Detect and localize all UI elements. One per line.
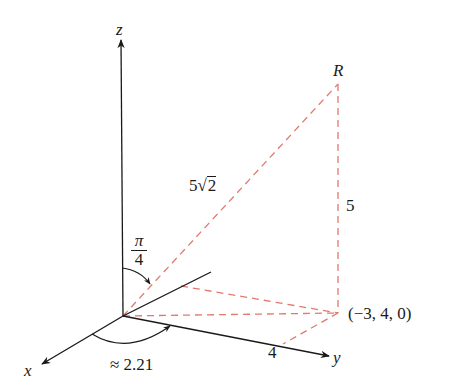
theta-arc xyxy=(92,326,170,343)
projection-point-label: (−3, 4, 0) xyxy=(348,305,411,322)
construction-lines xyxy=(123,84,338,344)
x-parallel-line xyxy=(181,286,338,313)
sqrt-symbol: √ xyxy=(198,176,207,195)
z-axis xyxy=(121,40,123,316)
point-R-label: R xyxy=(333,62,343,79)
y-axis-label: y xyxy=(333,349,341,366)
theta-angle-label: ≈ 2.21 xyxy=(110,356,153,373)
phi-arc xyxy=(122,268,150,284)
y-tick-label: 4 xyxy=(268,344,277,361)
negative-x-axis xyxy=(123,272,211,316)
projection-line xyxy=(123,313,338,316)
vertical-length-label: 5 xyxy=(346,197,355,214)
angle-arcs xyxy=(92,268,170,343)
diagram-canvas: z x y R (−3, 4, 0) 5√2 5 4 π 4 ≈ 2.21 xyxy=(0,0,456,388)
phi-numerator: π xyxy=(129,232,149,250)
phi-denominator: 4 xyxy=(129,251,149,269)
y-parallel-line xyxy=(283,313,338,344)
x-axis-label: x xyxy=(24,362,32,379)
hypotenuse-coefficient: 5 xyxy=(189,176,198,195)
diagram-graphics xyxy=(0,0,456,388)
sqrt-radicand: 2 xyxy=(207,176,217,194)
hypotenuse-line xyxy=(123,84,338,316)
phi-angle-label: π 4 xyxy=(129,232,149,269)
z-axis-label: z xyxy=(116,21,123,38)
hypotenuse-length-label: 5√2 xyxy=(189,176,216,194)
